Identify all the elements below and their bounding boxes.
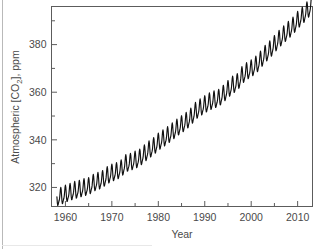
keeling-curve-chart: 196019701980199020002010 320340360380 Ye… (0, 0, 332, 249)
x-axis-title: Year (171, 228, 193, 240)
y-axis-title: Atmospheric [CO2], ppm (9, 50, 24, 164)
figure-left-border (2, 0, 3, 249)
x-axis-tick-labels: 196019701980199020002010 (54, 211, 310, 223)
y-axis-tick-labels: 320340360380 (29, 38, 47, 193)
y-tick-label: 360 (29, 86, 47, 98)
x-tick-label: 2010 (286, 211, 310, 223)
y-axis-ticks (52, 21, 58, 188)
y-axis-title-suffix: ], ppm (9, 50, 21, 79)
figure-container: 196019701980199020002010 320340360380 Ye… (0, 0, 332, 249)
co2-data-curve (57, 0, 311, 205)
x-tick-label: 1970 (100, 211, 124, 223)
figure-bottom-border (2, 245, 152, 246)
x-tick-label: 1960 (54, 211, 78, 223)
x-tick-label: 1990 (193, 211, 217, 223)
x-tick-label: 1980 (147, 211, 171, 223)
y-tick-label: 380 (29, 38, 47, 50)
y-axis-title-prefix: Atmospheric [CO (9, 84, 21, 164)
x-axis-ticks (65, 201, 297, 207)
y-tick-label: 320 (29, 181, 47, 193)
x-tick-label: 2000 (240, 211, 264, 223)
plot-frame (52, 7, 313, 207)
y-tick-label: 340 (29, 134, 47, 146)
